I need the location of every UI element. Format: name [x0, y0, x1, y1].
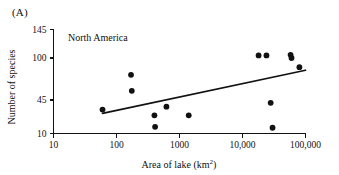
y-axis-title: Number of species: [6, 49, 17, 124]
data-point: [100, 107, 106, 113]
data-point: [256, 53, 262, 59]
data-point: [152, 112, 158, 118]
y-tick-label: 145: [32, 25, 47, 35]
data-point: [296, 64, 302, 70]
x-axis-title-close: ): [213, 159, 216, 171]
y-tick-label: 10: [37, 129, 47, 139]
data-point: [164, 104, 170, 110]
y-tick-label: 45: [37, 95, 47, 105]
x-axis-title-base: Area of lake (km: [142, 159, 210, 171]
y-tick-label: 100: [32, 53, 47, 63]
data-points: [100, 52, 303, 131]
series-label: North America: [68, 32, 128, 43]
y-axis-ticks: 1045100145: [32, 25, 53, 139]
data-point: [129, 88, 135, 94]
scatter-plot: Number of species 1045100145 10100100010…: [0, 0, 339, 175]
x-tick-label: 100: [109, 140, 124, 150]
data-point: [128, 72, 134, 78]
x-axis-title: Area of lake (km2): [142, 158, 217, 171]
x-tick-label: 10: [49, 140, 59, 150]
x-tick-label: 10,000: [229, 140, 255, 150]
data-point: [264, 53, 270, 59]
axis-lines: [54, 29, 306, 134]
x-tick-label: 100,000: [290, 140, 321, 150]
data-point: [268, 100, 274, 106]
data-point: [289, 55, 295, 61]
figure-panel-a: (A) Number of species 1045100145 1010010…: [0, 0, 339, 175]
data-point: [152, 124, 158, 130]
data-point: [270, 125, 276, 131]
x-axis-ticks: 10100100010,000100,000: [49, 134, 321, 150]
x-tick-label: 1000: [170, 140, 189, 150]
data-point: [186, 112, 192, 118]
